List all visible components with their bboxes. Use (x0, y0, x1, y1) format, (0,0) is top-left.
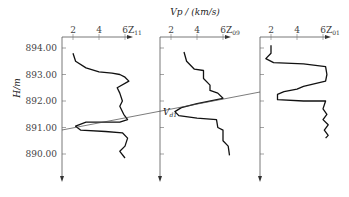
x-tick-label: 2 (168, 25, 174, 35)
curve-z09 (175, 52, 230, 155)
right-arrow-icon (225, 35, 231, 39)
down-arrow-icon (258, 176, 262, 182)
x-tick-label: 4 (96, 25, 102, 35)
y-tick-label: 892.00 (26, 96, 58, 106)
y-tick-label: 893.00 (26, 70, 58, 80)
zone-label: Z09 (226, 25, 240, 36)
chart-title: Vp / (km/s) (170, 7, 220, 17)
y-tick-label: 890.00 (26, 149, 58, 159)
right-arrow-icon (127, 35, 133, 39)
curve-z11 (73, 53, 129, 158)
panel-z11 (60, 34, 133, 182)
right-arrow-icon (325, 35, 331, 39)
x-tick-label: 4 (194, 25, 200, 35)
correlation-line (62, 92, 260, 130)
down-arrow-icon (158, 176, 162, 182)
zone-label: Z01 (326, 25, 340, 36)
labels: 246Z11246Z09246Z01894.00893.00892.00891.… (12, 7, 340, 159)
zone-label: Z11 (128, 25, 142, 36)
curve-z01 (266, 45, 328, 138)
x-tick-label: 2 (70, 25, 76, 35)
velocity-depth-chart: 246Z11246Z09246Z01894.00893.00892.00891.… (0, 0, 349, 197)
down-arrow-icon (60, 176, 64, 182)
y-tick-label: 891.00 (26, 123, 58, 133)
y-tick-label: 894.00 (26, 43, 58, 53)
y-axis-title: H/m (12, 78, 22, 98)
x-tick-label: 2 (268, 25, 274, 35)
x-tick-label: 4 (294, 25, 300, 35)
axes (60, 34, 331, 182)
velocity-curves (62, 45, 328, 158)
